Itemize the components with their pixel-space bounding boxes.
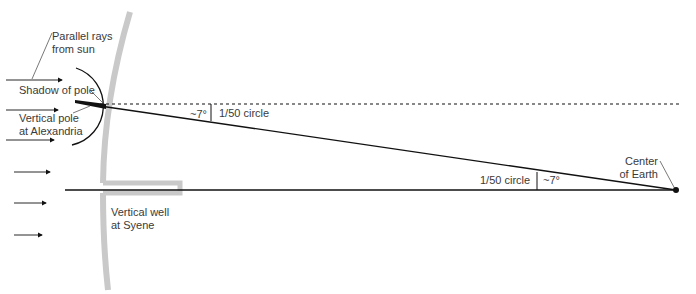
label-parallel-rays: Parallel rays from sun: [52, 30, 113, 56]
label-vertical-well: Vertical well at Syene: [111, 206, 169, 232]
label-text: at Syene: [111, 219, 169, 232]
label-text: Vertical pole: [19, 112, 83, 125]
leader-parallel-rays: [32, 33, 52, 79]
radius-alexandria-line: [100, 106, 676, 190]
label-text: of Earth: [618, 168, 658, 181]
leader-center: [660, 161, 675, 189]
label-text: Parallel rays: [52, 30, 113, 43]
center-of-earth-dot: [673, 187, 679, 193]
label-angle-top: ~7°: [190, 108, 207, 121]
label-text: from sun: [52, 43, 113, 56]
diagram-canvas: Parallel rays from sun Shadow of pole Ve…: [0, 0, 696, 294]
label-angle-bottom: ~7°: [543, 174, 560, 187]
earth-surface: [103, 12, 180, 290]
label-text: Vertical well: [111, 206, 169, 219]
well-syene: [103, 183, 180, 193]
label-vertical-pole: Vertical pole at Alexandria: [19, 112, 83, 138]
label-shadow-of-pole: Shadow of pole: [19, 84, 95, 97]
label-center-of-earth: Center of Earth: [618, 155, 658, 181]
sun-rays: [6, 80, 62, 235]
label-fraction-bottom: 1/50 circle: [480, 174, 530, 187]
label-fraction-top: 1/50 circle: [219, 107, 269, 120]
label-text: at Alexandria: [19, 125, 83, 138]
label-text: Center: [618, 155, 658, 168]
